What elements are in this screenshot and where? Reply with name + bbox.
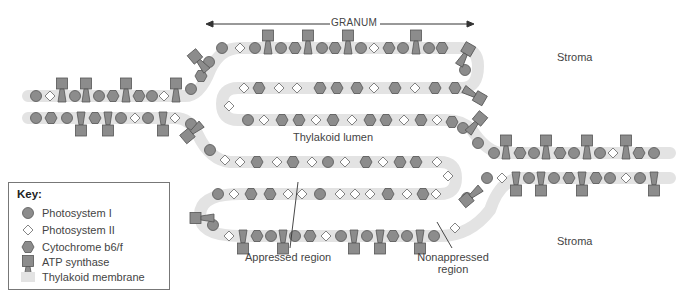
nonappressed-region-label: Nonappressed region (413, 251, 493, 275)
nonappressed-line1: Nonappressed (413, 251, 493, 263)
diamond-icon (21, 222, 35, 238)
legend-label: ATP synthase (42, 256, 109, 268)
legend-label: Photosystem II (42, 224, 115, 236)
legend-item-photosystem-i: Photosystem I (21, 205, 112, 221)
hexagon-icon (21, 239, 35, 255)
legend-item-thylakoid-membrane: Thylakoid membrane (21, 269, 145, 285)
legend-label: Cytochrome b6/f (42, 241, 123, 253)
stroma-label-top: Stroma (557, 51, 592, 63)
legend-box: Key: Photosystem I Photosystem II Cytoch… (8, 182, 170, 290)
stroma-label-bottom: Stroma (557, 235, 592, 247)
legend-title: Key: (17, 188, 42, 200)
thylakoid-lumen-label: Thylakoid lumen (293, 131, 373, 143)
circle-icon (21, 205, 35, 221)
appressed-region-label: Appressed region (245, 251, 331, 263)
membrane-swatch-icon (21, 269, 35, 285)
nonappressed-line2: region (413, 263, 493, 275)
legend-label: Thylakoid membrane (42, 271, 145, 283)
legend-item-photosystem-ii: Photosystem II (21, 222, 115, 238)
legend-item-cytochrome: Cytochrome b6/f (21, 239, 123, 255)
granum-label: GRANUM (331, 17, 377, 28)
legend-label: Photosystem I (42, 207, 112, 219)
